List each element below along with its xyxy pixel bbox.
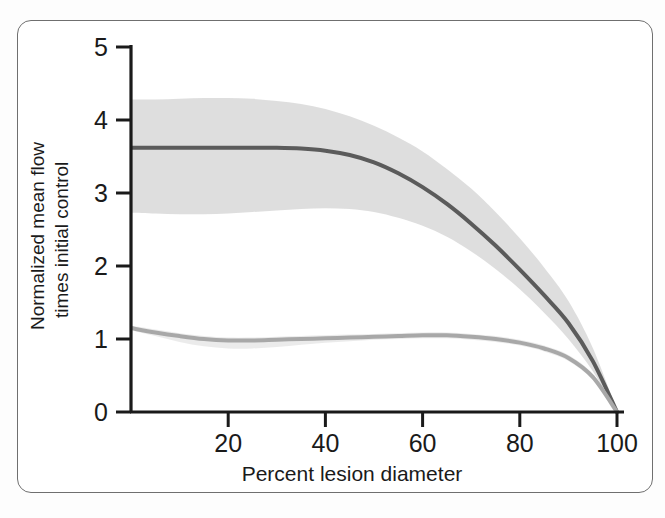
- y-axis-title-line2: times initial control: [51, 162, 72, 318]
- x-axis-title: Percent lesion diameter: [242, 462, 463, 485]
- series-line-resting-flow: [131, 328, 617, 412]
- y-axis-title: Normalized mean flow times initial contr…: [27, 142, 72, 330]
- x-tick-label-60: 60: [409, 429, 437, 457]
- x-axis-ticks: [228, 412, 617, 427]
- y-tick-label-5: 5: [94, 33, 108, 61]
- x-tick-label-100: 100: [596, 429, 638, 457]
- y-tick-label-1: 1: [94, 325, 108, 353]
- x-axis-tick-labels: 20406080100: [214, 429, 638, 457]
- y-axis-title-line1: Normalized mean flow: [27, 142, 48, 330]
- confidence-bands: [131, 98, 617, 412]
- confidence-band-dark: [131, 98, 617, 412]
- y-tick-label-4: 4: [94, 106, 108, 134]
- y-tick-label-0: 0: [94, 398, 108, 426]
- x-tick-label-40: 40: [311, 429, 339, 457]
- y-axis-ticks: [116, 47, 131, 412]
- chart-canvas: 012345 20406080100 Normalized mean flow …: [0, 0, 665, 518]
- y-tick-label-3: 3: [94, 179, 108, 207]
- y-tick-label-2: 2: [94, 252, 108, 280]
- y-axis-tick-labels: 012345: [94, 33, 108, 426]
- figure-root: 012345 20406080100 Normalized mean flow …: [0, 0, 665, 518]
- x-tick-label-20: 20: [214, 429, 242, 457]
- x-tick-label-80: 80: [506, 429, 534, 457]
